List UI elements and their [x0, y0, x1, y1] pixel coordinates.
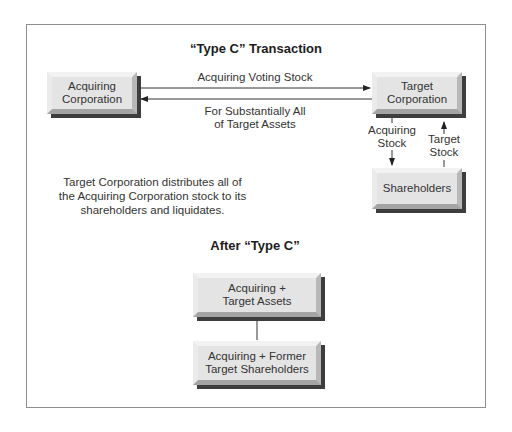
node-label: Acquiring Corporation	[62, 80, 122, 106]
node-label: Acquiring + Former Target Shareholders	[205, 350, 309, 376]
node-acquiring-corporation: Acquiring Corporation	[47, 72, 137, 114]
node-label: Acquiring + Target Assets	[222, 282, 291, 308]
node-target-corporation: Target Corporation	[372, 72, 462, 114]
note-text: Target Corporation distributes all of th…	[45, 175, 260, 217]
edge-label-target-stock: Target Stock	[419, 133, 469, 159]
node-combined-shareholders: Acquiring + Former Target Shareholders	[193, 341, 321, 385]
edge-label-target-assets: For Substantially All of Target Assets	[180, 105, 330, 131]
node-label: Shareholders	[383, 182, 451, 195]
after-title: After “Type C”	[180, 238, 330, 253]
node-combined-assets: Acquiring + Target Assets	[193, 273, 321, 317]
node-label: Target Corporation	[387, 80, 447, 106]
node-shareholders: Shareholders	[372, 168, 462, 209]
edge-label-acquiring-stock: Acquiring Stock	[362, 124, 422, 150]
edge-label-voting-stock: Acquiring Voting Stock	[180, 71, 330, 84]
